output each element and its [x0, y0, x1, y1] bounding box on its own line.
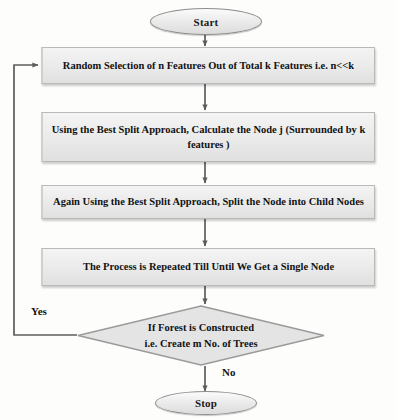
node-step1: Random Selection of n Features Out of To…: [41, 47, 375, 84]
node-step3: Again Using the Best Split Approach, Spl…: [41, 185, 375, 219]
decision-diamond-shape: [77, 305, 325, 366]
node-stop: Stop: [155, 391, 257, 415]
node-stop-label: Stop: [195, 397, 217, 409]
node-step2-label: Using the Best Split Approach, Calculate…: [50, 122, 367, 152]
node-start: Start: [150, 8, 262, 35]
node-step2: Using the Best Split Approach, Calculate…: [41, 112, 375, 162]
node-step3-label: Again Using the Best Split Approach, Spl…: [53, 194, 364, 209]
edge-label-yes: Yes: [31, 305, 47, 317]
node-start-label: Start: [194, 16, 219, 28]
node-step4: The Process is Repeated Till Until We Ge…: [41, 248, 375, 286]
node-step4-label: The Process is Repeated Till Until We Ge…: [83, 259, 334, 274]
node-decision: If Forest is Constructed i.e. Create m N…: [77, 305, 325, 366]
node-step1-label: Random Selection of n Features Out of To…: [63, 58, 354, 73]
edge-label-no: No: [222, 366, 235, 378]
flowchart-canvas: Start Random Selection of n Features Out…: [0, 0, 396, 420]
